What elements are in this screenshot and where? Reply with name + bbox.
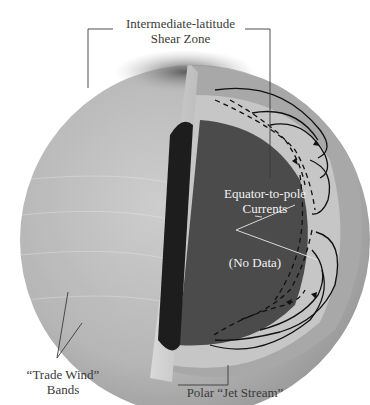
trade-wind-label-line1: “Trade Wind”: [18, 367, 108, 382]
trade-wind-label-line2: Bands: [18, 382, 108, 397]
diagram-stage: Intermediate-latitude Shear Zone Equator…: [0, 0, 370, 405]
jet-stream-label: Polar “Jet Stream”: [180, 385, 290, 400]
currents-label-line1: Equator-to-pole: [210, 186, 320, 201]
currents-label: Equator-to-pole Currents: [210, 186, 320, 216]
shear-zone-label: Intermediate-latitude Shear Zone: [118, 16, 243, 46]
currents-label-line2: Currents: [210, 201, 320, 216]
shear-zone-label-line1: Intermediate-latitude: [118, 16, 243, 31]
shear-zone-label-line2: Shear Zone: [118, 31, 243, 46]
no-data-label: (No Data): [210, 255, 300, 270]
shear-zone-leader-left: [88, 29, 113, 88]
trade-wind-label: “Trade Wind” Bands: [18, 367, 108, 397]
